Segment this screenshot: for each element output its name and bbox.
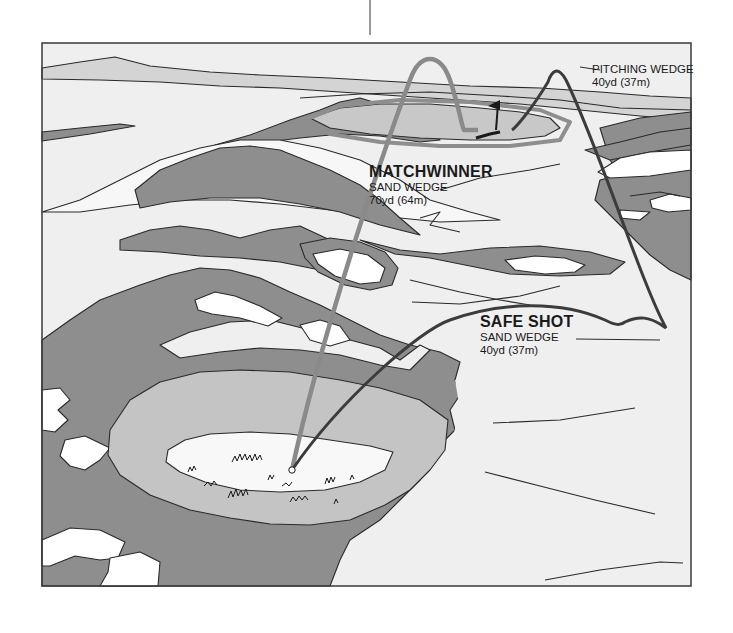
- safe-shot-club: SAND WEDGE: [480, 331, 573, 344]
- safe-shot-title: SAFE SHOT: [480, 313, 573, 331]
- course-illustration: [0, 0, 733, 633]
- matchwinner-title: MATCHWINNER: [369, 163, 493, 181]
- matchwinner-distance: 70yd (64m): [369, 194, 493, 207]
- pitching-wedge-label: PITCHING WEDGE 40yd (37m): [592, 63, 694, 89]
- golf-shot-illustration: MATCHWINNER SAND WEDGE 70yd (64m) SAFE S…: [0, 0, 733, 633]
- pitching-club: PITCHING WEDGE: [592, 63, 694, 76]
- ball-icon: [289, 467, 295, 473]
- matchwinner-club: SAND WEDGE: [369, 181, 493, 194]
- pitching-distance: 40yd (37m): [592, 76, 694, 89]
- matchwinner-label: MATCHWINNER SAND WEDGE 70yd (64m): [369, 163, 493, 207]
- safe-shot-distance: 40yd (37m): [480, 344, 573, 357]
- safe-shot-label: SAFE SHOT SAND WEDGE 40yd (37m): [480, 313, 573, 357]
